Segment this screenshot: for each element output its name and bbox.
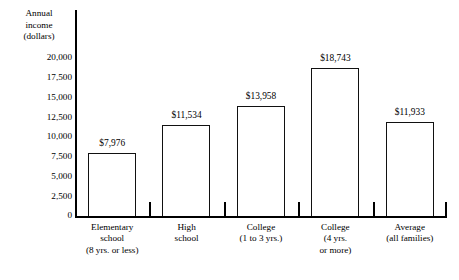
x-axis-category-label: College(1 to 3 yrs.) — [224, 222, 298, 245]
y-axis-tick-label: 0 — [4, 211, 72, 220]
bar-chart: Annual income (dollars) 02,5005,0007,500… — [0, 0, 459, 280]
x-axis-category-label-line: or more) — [298, 245, 372, 256]
bar-value-label: $7,976 — [75, 139, 149, 148]
y-axis-tick-label: 10,000 — [4, 132, 72, 141]
bar-slot — [224, 0, 298, 216]
x-axis-category-label-line: school — [149, 233, 223, 244]
bar-value-label: $18,743 — [298, 54, 372, 63]
bar[interactable] — [237, 106, 285, 216]
bar[interactable] — [88, 153, 136, 216]
x-axis-category-label-line: Average — [373, 222, 447, 233]
x-axis-category-label-line: College — [298, 222, 372, 233]
x-axis-category-label-line: College — [224, 222, 298, 233]
bar-slot — [75, 0, 149, 216]
y-axis-tick-label: 12,500 — [4, 113, 72, 122]
x-axis-category-label: College(4 yrs.or more) — [298, 222, 372, 256]
x-axis-category-label-line: (all families) — [373, 233, 447, 244]
x-axis-category-label-line: Elementary — [75, 222, 149, 233]
bar-slot — [298, 0, 372, 216]
x-axis-category-label-line: (4 yrs. — [298, 233, 372, 244]
bars-layer: $7,976$11,534$13,958$18,743$11,933 — [75, 0, 447, 218]
x-axis-line — [75, 216, 447, 218]
y-axis-tick-label: 20,000 — [4, 53, 72, 62]
bar-slot — [149, 0, 223, 216]
y-axis-tick-label: 15,000 — [4, 93, 72, 102]
y-axis-tick-label: 7,500 — [4, 152, 72, 161]
bar[interactable] — [162, 125, 210, 216]
x-axis-category-label-line: (1 to 3 yrs.) — [224, 233, 298, 244]
y-axis-tick-label: 17,500 — [4, 73, 72, 82]
y-axis-tick-label: 2,500 — [4, 192, 72, 201]
x-axis-category-label: Highschool — [149, 222, 223, 245]
x-axis-category-labels: Elementaryschool(8 yrs. or less)Highscho… — [75, 222, 447, 278]
y-axis-tick-label: 5,000 — [4, 172, 72, 181]
y-axis-tick-labels: 02,5005,0007,50010,00012,50015,00017,500… — [0, 0, 72, 280]
x-axis-category-label: Elementaryschool(8 yrs. or less) — [75, 222, 149, 256]
bar-value-label: $13,958 — [224, 92, 298, 101]
x-axis-category-label-line: school — [75, 233, 149, 244]
bar[interactable] — [311, 68, 359, 216]
x-axis-category-label: Average(all families) — [373, 222, 447, 245]
bar[interactable] — [386, 122, 434, 216]
bar-value-label: $11,933 — [373, 108, 447, 117]
x-axis-category-label-line: High — [149, 222, 223, 233]
bar-value-label: $11,534 — [149, 111, 223, 120]
x-axis-category-label-line: (8 yrs. or less) — [75, 245, 149, 256]
